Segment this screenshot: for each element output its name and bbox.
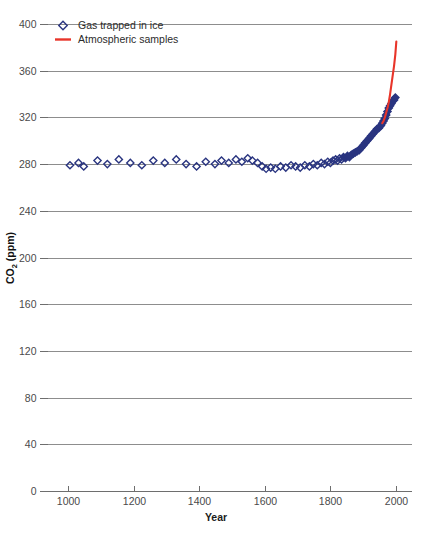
legend-label: Atmospheric samples [78, 33, 178, 45]
y-tick-label: 240 [19, 205, 37, 217]
y-tick-label: 280 [19, 158, 37, 170]
data-point-marker [218, 157, 225, 164]
chart-legend: Gas trapped in iceAtmospheric samples [55, 19, 178, 45]
x-tick-label: 1600 [254, 495, 278, 507]
x-tick-label: 2000 [385, 495, 409, 507]
y-tick-group: 04080120160200240280320360400 [19, 18, 48, 497]
y-axis-title-unit: (ppm) [4, 232, 16, 264]
data-point-marker [66, 162, 73, 169]
x-tick-label: 1800 [319, 495, 343, 507]
y-axis-title: CO2 (ppm) [4, 232, 19, 284]
x-axis-group: 100012001400160018002000 [40, 486, 413, 507]
data-point-marker [161, 159, 168, 166]
svg-text:CO2 (ppm): CO2 (ppm) [4, 232, 19, 284]
x-axis-title: Year [205, 511, 227, 523]
y-axis-title-base: CO [4, 268, 16, 284]
y-tick-label: 0 [31, 485, 37, 497]
data-point-marker [115, 156, 122, 163]
y-tick-label: 360 [19, 65, 37, 77]
y-tick-label: 40 [25, 438, 37, 450]
y-tick-label: 400 [19, 18, 37, 30]
data-point-marker [138, 162, 145, 169]
data-point-marker [94, 157, 101, 164]
data-point-marker [173, 156, 180, 163]
y-tick-label: 320 [19, 111, 37, 123]
x-tick-label: 1000 [57, 495, 81, 507]
y-tick-label: 160 [19, 298, 37, 310]
data-point-marker [225, 159, 232, 166]
gridlines-group [48, 25, 413, 445]
x-tick-label: 1200 [123, 495, 147, 507]
co2-chart: 04080120160200240280320360400 1000120014… [0, 0, 424, 538]
data-point-marker [127, 159, 134, 166]
y-tick-label: 200 [19, 252, 37, 264]
data-point-marker [193, 163, 200, 170]
data-point-marker [59, 21, 67, 29]
y-tick-label: 80 [25, 392, 37, 404]
chart-canvas: 04080120160200240280320360400 1000120014… [0, 0, 424, 538]
data-point-marker [150, 157, 157, 164]
ice-core-series [66, 94, 399, 172]
x-tick-label: 1400 [188, 495, 212, 507]
y-tick-label: 120 [19, 345, 37, 357]
legend-label: Gas trapped in ice [78, 19, 163, 31]
